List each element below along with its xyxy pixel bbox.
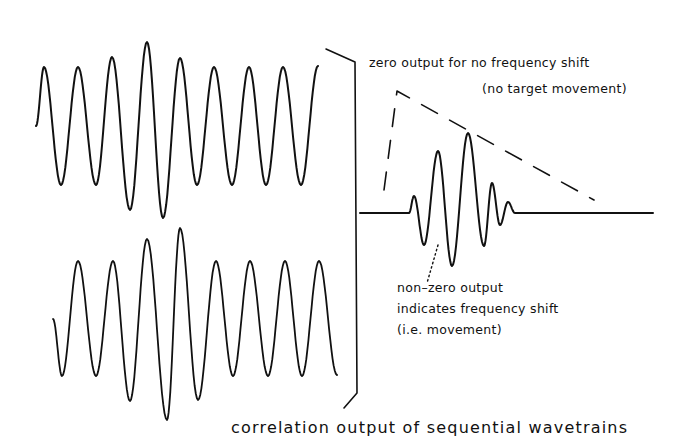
figure-caption: correlation output of sequential wavetra… [231,418,628,437]
movement-label: (i.e. movement) [397,319,502,340]
diagram-graphics [0,0,699,446]
dashed-envelope [384,91,594,200]
zero-output-label: zero output for no frequency shift [369,52,590,73]
wavetrain-top [36,42,318,218]
no-target-movement-label: (no target movement) [482,78,627,99]
bracket [326,49,357,408]
nonzero-output-label: non–zero output [397,277,503,298]
diagram-canvas: zero output for no frequency shift (no t… [0,0,699,446]
frequency-shift-label: indicates frequency shift [397,298,559,319]
correlation-output-wave [360,133,653,266]
wavetrain-bottom [53,228,337,420]
